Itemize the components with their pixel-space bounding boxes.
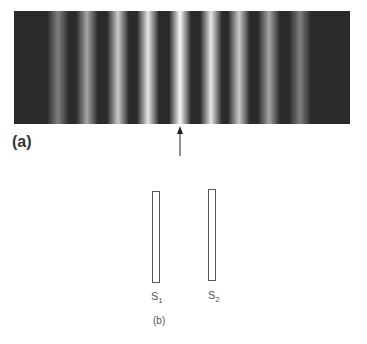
bright-fringe xyxy=(47,11,69,124)
slit-s1-label: S1 xyxy=(151,290,163,305)
bright-fringe xyxy=(258,11,280,124)
bright-fringe xyxy=(76,11,98,124)
slit-s2 xyxy=(208,189,216,281)
bright-fringe xyxy=(137,11,159,124)
central-maximum-arrow-icon xyxy=(176,126,184,156)
panel-a-label: (a) xyxy=(12,133,32,151)
bright-fringe xyxy=(169,11,191,124)
bright-fringe xyxy=(228,11,250,124)
bright-fringe xyxy=(200,11,222,124)
slit-s2-label: S2 xyxy=(208,289,220,304)
slit-s1 xyxy=(152,191,160,283)
bright-fringe xyxy=(289,11,311,124)
panel-b-label: (b) xyxy=(153,315,165,326)
bright-fringe xyxy=(107,11,129,124)
interference-fringe-pattern xyxy=(14,11,350,124)
